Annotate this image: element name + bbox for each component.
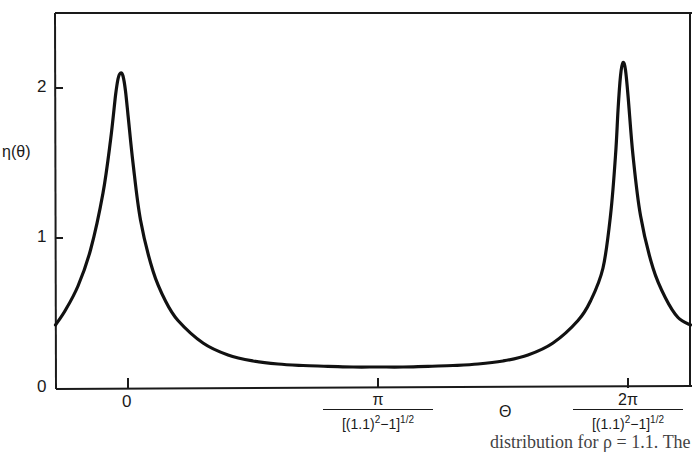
y-axis-label: η(θ) xyxy=(2,143,30,161)
y-tick-label: 0 xyxy=(37,377,46,397)
x-tick-label: π[(1.1)2−1]1/2 xyxy=(323,392,433,432)
caption-fragment: distribution for ρ = 1.1. The xyxy=(490,432,691,453)
plot-frame xyxy=(55,13,692,389)
x-tick-label: 2π[(1.1)2−1]1/2 xyxy=(573,392,683,432)
x-tick-label: 0 xyxy=(122,394,131,410)
y-tick-label: 1 xyxy=(37,227,46,247)
eta-curve xyxy=(56,62,691,367)
x-axis-label: Θ xyxy=(499,403,511,421)
y-tick-label: 2 xyxy=(37,77,46,97)
